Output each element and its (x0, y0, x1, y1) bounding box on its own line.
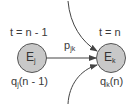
q-prev-arg: (n - 1) (19, 75, 48, 87)
node-ek-subscript: k (112, 57, 116, 64)
q-label-current: qk(n) (100, 76, 123, 88)
edge-subscript: jk (70, 45, 75, 52)
node-ek-letter: E (104, 50, 112, 64)
node-ej-letter: E (26, 50, 34, 64)
node-ek-label: Ek (104, 51, 116, 64)
edge-label: pjk (64, 40, 75, 52)
node-ej-subscript: j (34, 57, 36, 64)
q-label-prev: qj(n - 1) (11, 76, 48, 88)
q-current-arg: (n) (110, 75, 123, 87)
time-label-current: t = n (99, 27, 121, 38)
time-label-prev: t = n - 1 (10, 27, 48, 38)
transition-diagram: t = n - 1 t = n Ej Ek pjk qj(n - 1) qk(n… (0, 0, 133, 109)
node-ej-label: Ej (26, 51, 36, 64)
incoming-arrow-bottom (68, 65, 97, 104)
